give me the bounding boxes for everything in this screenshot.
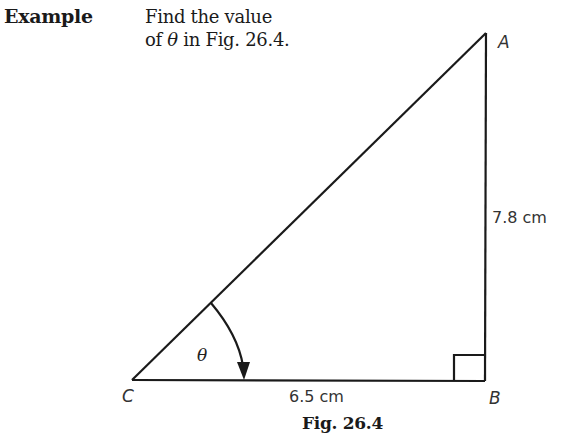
angle-arc xyxy=(211,303,243,366)
side-cb xyxy=(132,380,485,381)
side-ca-hypotenuse xyxy=(132,33,486,380)
vertex-label-b: B xyxy=(489,388,501,408)
triangle xyxy=(132,33,486,381)
vertex-label-c: C xyxy=(122,386,134,406)
angle-label-theta: θ xyxy=(197,345,207,365)
right-angle-marker xyxy=(454,355,485,381)
side-ab xyxy=(485,33,486,381)
side-label-ab: 7.8 cm xyxy=(492,208,547,227)
vertex-label-a: A xyxy=(497,32,510,52)
side-label-cb: 6.5 cm xyxy=(289,387,344,406)
figure-caption: Fig. 26.4 xyxy=(0,413,571,433)
triangle-figure: A B C 7.8 cm 6.5 cm θ xyxy=(0,0,571,441)
arrowhead-icon xyxy=(237,362,250,380)
